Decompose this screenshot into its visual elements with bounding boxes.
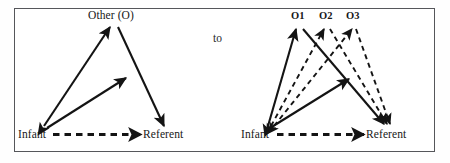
edge-infant-midline-right bbox=[270, 79, 349, 128]
node-label-referent-right: Referent bbox=[366, 128, 406, 140]
node-label-infant-left: Infant bbox=[18, 128, 46, 140]
node-label-o2: O2 bbox=[319, 10, 332, 21]
edge-o1-referent bbox=[303, 29, 384, 124]
node-label-infant-right: Infant bbox=[241, 128, 269, 140]
panel-connector-to: to bbox=[213, 32, 222, 44]
node-label-referent-left: Referent bbox=[143, 128, 183, 140]
node-label-o3: O3 bbox=[346, 10, 359, 21]
edge-infant-other bbox=[44, 27, 110, 126]
node-label-o1: O1 bbox=[291, 10, 304, 21]
diagram-figure: Referent : thick dashed --> Referent : t… bbox=[0, 0, 450, 163]
edge-infant-o3 bbox=[274, 29, 352, 126]
edge-other-referent bbox=[118, 27, 164, 126]
edge-infant-o1 bbox=[268, 29, 296, 126]
edge-o2-referent bbox=[330, 29, 387, 124]
node-label-other: Other (O) bbox=[88, 9, 134, 21]
